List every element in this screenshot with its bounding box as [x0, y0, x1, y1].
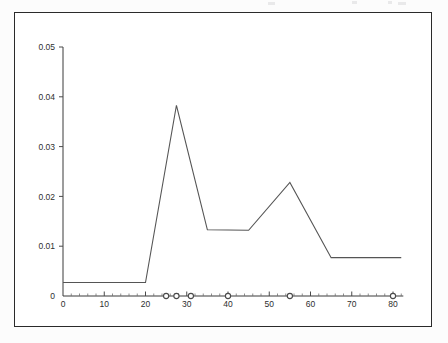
- x-axis-tick-label: 0: [61, 299, 66, 309]
- y-axis-tick-label: 0.05: [38, 42, 55, 52]
- x-axis-tick-label: 80: [388, 299, 398, 309]
- x-axis-tick-label: 40: [223, 299, 233, 309]
- y-axis-tick-label: 0.02: [38, 192, 55, 202]
- x-axis-tick-label: 20: [141, 299, 151, 309]
- line-chart: 00.010.020.030.040.0501020304050607080: [0, 0, 448, 343]
- x-axis-tick-label: 70: [347, 299, 357, 309]
- x-axis-tick-label: 50: [265, 299, 275, 309]
- y-axis-tick-label: 0: [50, 291, 55, 301]
- data-point-marker: [225, 293, 230, 298]
- data-point-marker: [390, 293, 395, 298]
- data-point-marker: [188, 293, 193, 298]
- x-axis-tick-label: 10: [100, 299, 110, 309]
- data-point-marker: [174, 293, 179, 298]
- y-axis-tick-label: 0.04: [38, 92, 55, 102]
- y-axis-tick-label: 0.01: [38, 241, 55, 251]
- x-axis-tick-label: 60: [306, 299, 316, 309]
- data-line-series: [63, 105, 401, 282]
- y-axis-tick-label: 0.03: [38, 142, 55, 152]
- x-axis-tick-label: 30: [182, 299, 192, 309]
- data-point-marker: [164, 293, 169, 298]
- data-point-marker: [287, 293, 292, 298]
